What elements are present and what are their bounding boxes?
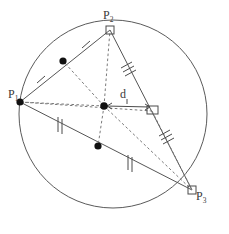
side-P1-P2 [20, 30, 110, 102]
side-P1-P3 [20, 102, 192, 190]
center-to-midpoint-P1P2 [63, 61, 104, 106]
vertex-label-P1: P1 [8, 88, 18, 103]
radius-center-to-P2 [104, 30, 110, 106]
midpoint-P1-P2-dot [59, 57, 66, 64]
geometry-figure: P1 P2 P3 d [0, 0, 229, 234]
vertex-label-P3: P3 [196, 190, 206, 205]
diagram-canvas [0, 0, 229, 234]
center-to-midpoint-P1P3 [98, 106, 104, 146]
radius-center-to-P3 [104, 106, 192, 190]
distance-label-d: d [120, 88, 126, 100]
radius-center-to-P1 [20, 102, 104, 106]
distance-d-arrow [106, 103, 150, 110]
midpoint-P1-P3-dot [94, 142, 101, 149]
circumcenter-dot [100, 102, 108, 110]
tick-P1-mid12-1 [37, 76, 45, 83]
vertex-label-P2: P2 [103, 9, 113, 24]
